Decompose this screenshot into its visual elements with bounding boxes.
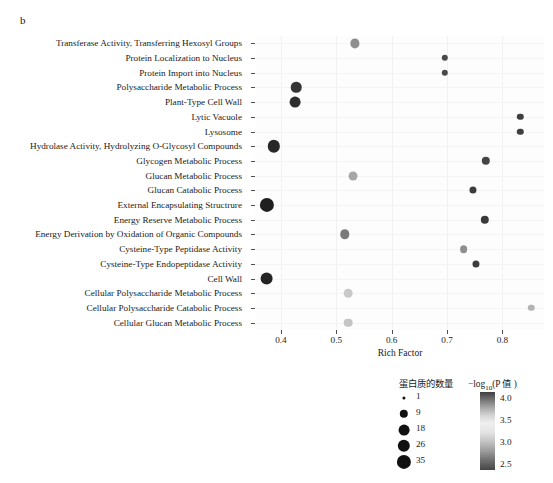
size-legend-item: 26 [378,438,474,454]
y-axis-tick-mark [251,249,255,250]
gridline-horizontal [256,264,544,265]
panel-label: b [20,14,26,26]
size-legend-label: 18 [416,423,425,433]
size-legend-swatch [400,410,408,418]
y-axis-tick-mark [251,43,255,44]
color-legend: −log10(P 值 ) 4.03.53.02.5 [472,376,552,392]
data-point [481,216,489,224]
gridline-horizontal [256,293,544,294]
y-axis-tick-mark [251,205,255,206]
size-legend-item: 18 [378,422,474,438]
y-axis-tick-label: Glucan Catabolic Process [148,184,242,196]
y-axis-tick-mark [251,102,255,103]
y-axis-tick-mark [251,87,255,88]
data-point [348,171,357,180]
size-legend-swatch [399,425,410,436]
y-axis-tick-mark [251,293,255,294]
go-enrichment-bubble-plot: b GO TERM Transferase Activity, Transfer… [0,0,553,483]
gridline-horizontal [256,249,544,250]
data-point [470,187,477,194]
gridline-horizontal [256,117,544,118]
y-axis-tick-mark [251,132,255,133]
y-axis-tick-mark [251,190,255,191]
data-point [260,198,274,212]
gridline-vertical [281,36,282,330]
y-axis-tick-label: Energy Reserve Metabolic Process [114,214,242,226]
x-axis-tick-mark [447,330,448,334]
y-axis-tick-label: Cellular Glucan Metabolic Process [114,317,242,329]
x-axis-tick-mark [281,330,282,334]
size-legend-label: 9 [416,407,421,417]
y-axis-tick-mark [251,146,255,147]
size-legend-label: 35 [416,455,425,465]
gridline-horizontal [256,132,544,133]
size-legend-label: 26 [416,439,425,449]
data-point [344,289,353,298]
y-axis-tick-label: Cellular Polysaccharide Catabolic Proces… [87,302,242,314]
y-axis-tick-mark [251,176,255,177]
y-axis-tick-mark [251,58,255,59]
y-axis-tick-label: Cell Wall [207,273,242,285]
y-axis-tick-label: Protein Import into Nucleus [139,67,242,79]
data-point [528,305,534,311]
gridline-vertical [447,36,448,330]
y-axis-tick-label: External Encapsulating Structrure [118,199,243,211]
y-axis-tick-label: Energy Derivation by Oxidation of Organi… [35,228,242,240]
x-axis-tick-label: 0.8 [485,335,519,345]
plot-area [256,36,544,330]
gridline-horizontal [256,176,544,177]
gridline-horizontal [256,58,544,59]
colorbar-tick-label: 3.0 [500,437,511,447]
x-axis-tick-label: 0.4 [264,335,298,345]
data-point [517,114,523,120]
size-legend-rows: 19182635 [378,390,474,470]
size-legend-swatch [397,455,411,469]
gridline-horizontal [256,161,544,162]
y-axis-tick-label: Cysteine-Type Endopeptidase Activity [100,258,242,270]
gridline-horizontal [256,308,544,309]
size-legend-label: 1 [416,391,421,401]
y-axis-tick-label: Cellular Polysaccharide Metabolic Proces… [85,287,242,299]
gridline-horizontal [256,279,544,280]
y-axis-tick-mark [251,117,255,118]
y-axis-tick-label: Hydrolase Activity, Hydrolyzing O-Glycos… [30,140,242,152]
colorbar-tick-label: 4.0 [500,393,511,403]
size-legend-title: 蛋白质的数量 [378,376,474,390]
y-axis-labels: Transferase Activity, Transferring Hexos… [0,36,250,330]
x-axis-tick-label: 0.5 [319,335,353,345]
gridline-horizontal [256,220,544,221]
size-legend-swatch [398,440,410,452]
y-axis-tick-label: Glucan Metabolic Process [146,170,242,182]
data-point [350,39,359,48]
colorbar [480,392,495,470]
data-point [517,128,523,134]
y-axis-tick-mark [251,279,255,280]
gridline-vertical [392,36,393,330]
x-axis-tick-label: 0.6 [375,335,409,345]
gridline-horizontal [256,146,544,147]
y-axis-tick-label: Glycogen Metabolic Process [136,155,242,167]
y-axis-tick-mark [251,161,255,162]
y-axis-tick-label: Polysaccharide Metabolic Process [116,81,242,93]
size-legend-item: 9 [378,406,474,422]
x-axis-title: Rich Factor [256,348,544,358]
x-axis-tick-label: 0.7 [430,335,464,345]
y-axis-tick-mark [251,220,255,221]
y-axis-tick-label: Plant-Type Cell Wall [165,96,242,108]
data-point [344,318,353,327]
y-axis-tick-label: Lysosome [205,126,242,138]
y-axis-tick-label: Transferase Activity, Transferring Hexos… [56,37,242,49]
gridline-horizontal [256,234,544,235]
y-axis-tick-mark [251,264,255,265]
colorbar-tick-label: 2.5 [500,459,511,469]
x-axis-tick-mark [392,330,393,334]
gridline-vertical [502,36,503,330]
y-axis-tick-label: Protein Localization to Nucleus [125,52,242,64]
y-axis-tick-mark [251,73,255,74]
data-point [268,140,280,152]
size-legend-swatch [402,396,405,399]
data-point [340,230,349,239]
y-axis-tick-mark [251,323,255,324]
x-axis-tick-mark [502,330,503,334]
colorbar-tick-label: 3.5 [500,415,511,425]
